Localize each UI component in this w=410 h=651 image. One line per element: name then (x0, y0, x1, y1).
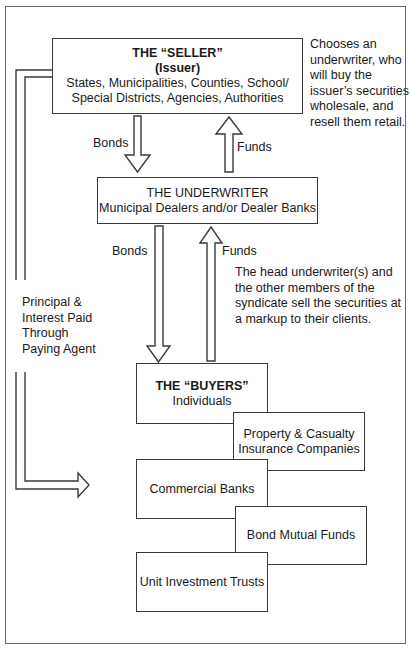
bonds-arrow-down-1 (125, 116, 150, 172)
underwriter-note: The head underwriter(s) and the other me… (235, 265, 401, 327)
underwriter-line-1: Municipal Dealers and/or Dealer Banks (99, 201, 316, 216)
seller-subtitle: (Issuer) (155, 61, 200, 76)
seller-title: THE “SELLER” (132, 46, 222, 61)
underwriter-title: THE UNDERWRITER (147, 186, 269, 201)
principal-interest-arrow (16, 70, 89, 497)
funds-arrow-up-2 (200, 227, 222, 361)
seller-box: THE “SELLER” (Issuer) States, Municipali… (52, 38, 303, 114)
unit-investment-trusts-box: Unit Investment Trusts (136, 552, 268, 612)
seller-note: Chooses an underwriter, who will buy the… (310, 37, 409, 130)
principal-interest-label: Principal & Interest Paid Through Paying… (22, 295, 96, 357)
buyers-individuals: Individuals (172, 394, 231, 409)
seller-line-1: States, Municipalities, Counties, School… (66, 76, 288, 91)
bonds-label-1: Bonds (93, 136, 128, 151)
funds-label-1: Funds (237, 140, 272, 155)
bonds-arrow-down-2 (147, 226, 170, 362)
seller-line-2: Special Districts, Agencies, Authorities (72, 91, 284, 106)
underwriter-box: THE UNDERWRITER Municipal Dealers and/or… (97, 177, 318, 224)
buyers-title: THE “BUYERS” (155, 379, 248, 394)
bonds-label-2: Bonds (112, 244, 147, 259)
funds-label-2: Funds (222, 244, 257, 259)
